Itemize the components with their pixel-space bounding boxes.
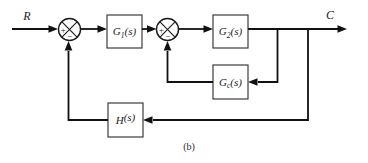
arrowhead-icon <box>49 25 59 33</box>
signal-g1-to-sum2 <box>142 25 157 33</box>
signal-line <box>69 51 109 120</box>
arrowhead-icon <box>143 116 153 124</box>
input-signal-line <box>12 25 58 33</box>
arrowhead-icon <box>204 25 214 33</box>
arrowhead-icon <box>65 41 73 51</box>
signal-sum2-to-g2 <box>179 25 214 33</box>
plus-sign: + <box>61 25 66 35</box>
signal-line <box>258 29 278 82</box>
plus-sign: + <box>159 25 164 35</box>
block-diagram-canvas: R + − G1(s) + − G2(s) <box>0 0 368 163</box>
arrowhead-icon <box>98 25 108 33</box>
arrowhead-icon <box>164 41 172 51</box>
block-g2: G2(s) <box>213 15 248 48</box>
arrowhead-icon <box>338 25 348 33</box>
output-signal-label: C <box>326 8 335 22</box>
signal-sum1-to-g1 <box>81 25 107 33</box>
signal-line <box>168 51 214 82</box>
block-diagram-figure: R + − G1(s) + − G2(s) <box>0 0 368 163</box>
figure-caption: (b) <box>183 141 195 153</box>
minus-sign: − <box>165 31 170 41</box>
arrowhead-icon <box>147 25 157 33</box>
minus-sign: − <box>67 31 72 41</box>
arrowhead-icon <box>248 78 258 86</box>
inner-feedback-gc-to-sum2 <box>164 41 213 82</box>
block-gc: Gc(s) <box>213 65 248 99</box>
outer-feedback-h-to-sum1 <box>65 41 108 120</box>
block-h: H(s) <box>108 103 143 137</box>
input-signal-label: R <box>22 9 31 23</box>
output-signal-line <box>248 25 347 33</box>
inner-feedback-branch-to-gc <box>248 29 278 86</box>
summing-junction-1: + − <box>59 19 81 42</box>
block-g1: G1(s) <box>107 15 142 48</box>
summing-junction-2: + − <box>157 19 179 42</box>
